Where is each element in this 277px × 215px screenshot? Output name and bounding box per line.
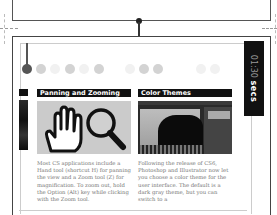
card-image (37, 101, 131, 154)
timeline-dot[interactable] (65, 64, 75, 74)
timeline-dot[interactable] (125, 64, 135, 74)
timer-label: 01:30 secs (244, 41, 264, 116)
previous-slide-panel[interactable] (12, 0, 271, 21)
prev-card-image-edge[interactable] (19, 100, 28, 150)
prev-card-title-edge (19, 89, 28, 96)
card-color-themes[interactable]: Color Themes Following the release of CS… (138, 89, 232, 203)
timeline-dot-active[interactable] (22, 64, 32, 74)
timeline-dot[interactable] (139, 64, 149, 74)
timeline-dot[interactable] (79, 64, 89, 74)
screenshot-menubar (138, 101, 232, 105)
timeline-dot[interactable] (196, 64, 206, 74)
timeline-dot[interactable] (153, 64, 163, 74)
connector-line (138, 22, 140, 36)
guide-line-right (275, 14, 276, 44)
timeline-dot[interactable] (36, 64, 46, 74)
fold-line (19, 210, 247, 211)
card-image-screenshot (138, 101, 232, 154)
guide-dash-left (0, 28, 18, 29)
timer-unit: secs (250, 80, 259, 102)
card-body: Most CS applications include a Hand tool… (37, 160, 131, 203)
timeline-dot[interactable] (94, 64, 104, 74)
card-body: Following the release of CS6, Photoshop … (138, 160, 232, 203)
screenshot-thumbnail (208, 111, 230, 119)
card-panning-zooming[interactable]: Panning and Zooming Most CS applications… (37, 89, 131, 203)
timeline-dot[interactable] (210, 64, 220, 74)
magnifier-icon (37, 101, 131, 154)
card-title: Panning and Zooming (37, 89, 131, 97)
timeline-marker (26, 43, 28, 65)
timeline-dot[interactable] (50, 64, 60, 74)
guide-line-left (4, 14, 5, 44)
screenshot-foreground (140, 145, 204, 154)
timer-time: 01:30 (250, 55, 259, 78)
card-title: Color Themes (138, 89, 232, 97)
guide-dash-right (262, 28, 277, 29)
